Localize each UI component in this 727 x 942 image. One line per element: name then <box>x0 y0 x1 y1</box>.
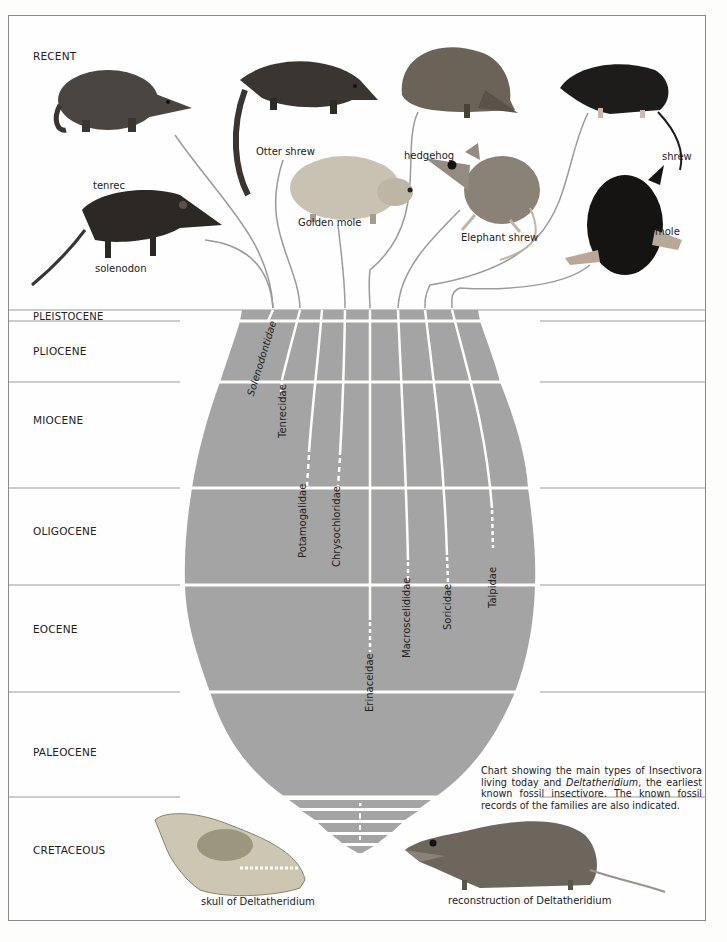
family-label-erinaceidae: Erinaceidae <box>364 653 375 712</box>
reconstruction-label: reconstruction of Deltatheridium <box>448 895 611 906</box>
animal-label-solenodon: solenodon <box>95 263 147 274</box>
animal-label-elephant-shrew: Elephant shrew <box>461 232 538 243</box>
deltatheridium-reconstruction-illustration <box>405 821 665 892</box>
epoch-label-eocene: EOCENE <box>33 623 78 635</box>
epoch-label-pliocene: PLIOCENE <box>33 345 87 357</box>
family-label-chrysochloridae: Chrysochloridae <box>331 486 342 567</box>
cretaceous-dots <box>359 803 362 840</box>
epoch-label-cretaceous: CRETACEOUS <box>33 844 105 856</box>
hedgehog-illustration <box>402 47 518 118</box>
family-label-talpidae: Talpidae <box>487 567 498 608</box>
family-label-tenrecidae: Tenrecidae <box>277 384 288 438</box>
mole-illustration <box>565 165 682 275</box>
epoch-label-paleocene: PALEOCENE <box>33 746 97 758</box>
golden-mole-illustration <box>290 156 413 224</box>
animal-label-otter-shrew: Otter shrew <box>256 146 315 157</box>
animal-label-tenrec: tenrec <box>93 180 125 191</box>
animal-label-golden-mole: Golden mole <box>298 217 361 228</box>
chart-caption: Chart showing the main types of Insectiv… <box>481 765 702 811</box>
animal-label-hedgehog: hedgehog <box>404 150 454 161</box>
animal-label-mole: mole <box>655 226 680 237</box>
family-label-macroscelididae: Macroscelididae <box>401 578 412 658</box>
skull-label: skull of Deltatheridium <box>201 896 315 907</box>
tenrec-illustration <box>56 70 192 132</box>
curve-golden-mole <box>338 225 345 308</box>
epoch-label-recent: RECENT <box>33 50 76 62</box>
skull-illustration <box>155 814 305 896</box>
curve-elephant-shrew <box>398 210 460 308</box>
curve-mole <box>452 265 590 308</box>
family-label-potamogalidae: Potamogalidae <box>297 484 308 558</box>
epoch-label-pleistocene: PLEISTOCENE <box>33 311 104 322</box>
animal-label-shrew: shrew <box>662 151 692 162</box>
family-label-soricidae: Soricidae <box>442 584 453 630</box>
caption-italic-genus: Deltatheridium <box>566 777 638 788</box>
curve-solenodon <box>205 240 273 308</box>
epoch-label-miocene: MIOCENE <box>33 414 83 426</box>
epoch-label-oligocene: OLIGOCENE <box>33 525 97 537</box>
